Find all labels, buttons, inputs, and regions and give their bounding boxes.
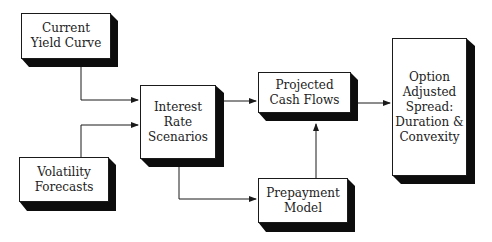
connectors [0, 0, 492, 242]
edge-volatility-to-scenarios [81, 125, 138, 157]
edge-scenarios-to-prepayment [179, 167, 256, 199]
edge-yield-to-scenarios [81, 67, 138, 100]
